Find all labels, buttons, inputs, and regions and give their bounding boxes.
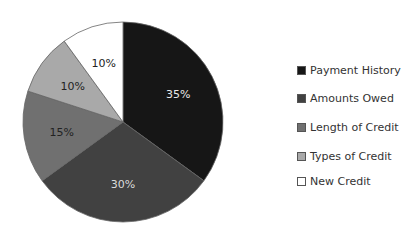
legend-swatch xyxy=(297,123,306,132)
legend-label: Payment History xyxy=(310,64,401,77)
legend-item-length-of-credit: Length of Credit xyxy=(297,121,399,134)
slice-label: 10% xyxy=(92,57,116,70)
legend-item-new-credit: New Credit xyxy=(297,175,371,188)
slice-label: 35% xyxy=(166,88,190,101)
slice-label: 30% xyxy=(111,178,135,191)
slice-label: 10% xyxy=(61,80,85,93)
legend-swatch xyxy=(297,66,306,75)
legend-label: Length of Credit xyxy=(310,121,399,134)
legend-item-amounts-owed: Amounts Owed xyxy=(297,92,394,105)
legend-swatch xyxy=(297,177,306,186)
legend-swatch xyxy=(297,94,306,103)
legend-item-payment-history: Payment History xyxy=(297,64,401,77)
legend-label: Types of Credit xyxy=(310,150,392,163)
pie-chart: 35%30%15%10%10% xyxy=(0,0,250,232)
slice-label: 15% xyxy=(50,126,74,139)
legend-label: Amounts Owed xyxy=(310,92,394,105)
legend-label: New Credit xyxy=(310,175,371,188)
legend-swatch xyxy=(297,152,306,161)
legend-item-types-of-credit: Types of Credit xyxy=(297,150,392,163)
